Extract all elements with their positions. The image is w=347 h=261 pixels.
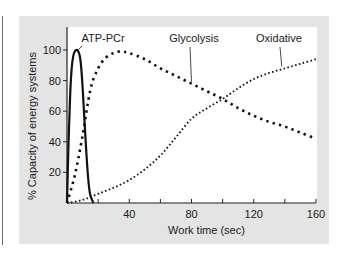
x-tick-label: 160: [307, 208, 325, 220]
series-label: ATP-PCr: [81, 32, 125, 44]
y-tick-label: 20: [49, 166, 61, 178]
y-tick-label: 80: [49, 75, 61, 87]
x-tick-label: 120: [245, 208, 263, 220]
plot-area: [67, 27, 317, 203]
x-tick-label: 80: [185, 208, 197, 220]
energy-systems-chart: 408012016020406080100 ATP-PCrGlycolysisO…: [0, 0, 347, 261]
x-tick-label: 40: [123, 208, 135, 220]
y-tick-label: 60: [49, 105, 61, 117]
y-tick-label: 100: [43, 44, 61, 56]
y-tick-label: 40: [49, 136, 61, 148]
y-axis-title: % Capacity of energy systems: [26, 52, 38, 200]
x-axis-title: Work time (sec): [168, 224, 245, 236]
series-label: Glycolysis: [169, 32, 219, 44]
series-label: Oxidative: [256, 32, 302, 44]
